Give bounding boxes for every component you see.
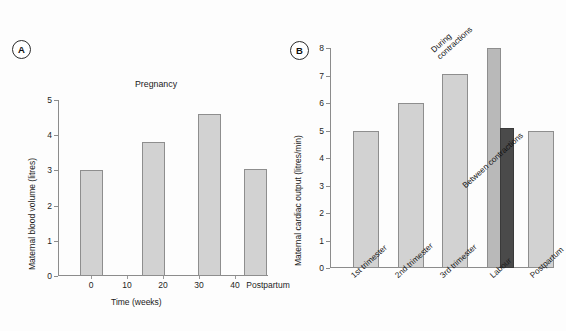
panel-a-letter: A <box>12 40 31 59</box>
panel-a-xlabel-10: 10 <box>117 281 137 290</box>
panel-b-ytick-7 <box>326 76 330 77</box>
panel-a-bar-week0 <box>80 170 103 276</box>
panel-b-ytick-2 <box>326 213 330 214</box>
panel-b-ytick-5 <box>326 131 330 132</box>
panel-a-ytick-label-1: 1 <box>26 237 52 246</box>
panel-b-y-axis <box>330 48 331 268</box>
panel-b-bar-3rd-trimester <box>442 74 468 268</box>
panel-a-xtick-0 <box>91 276 92 279</box>
panel-a-ytick-5 <box>54 100 58 101</box>
annotation-during-contractions: During contractions <box>429 18 474 62</box>
panel-a-ytick-label-5: 5 <box>26 96 52 105</box>
panel-b-ytick-4 <box>326 158 330 159</box>
panel-b: B Maternal cardiac output (litres/min) 8… <box>277 0 557 331</box>
panel-a-xtick-30 <box>199 276 200 279</box>
panel-b-plot-area: 8 7 6 5 4 3 2 1 0 1st trimester <box>330 48 547 268</box>
panel-a-title: Pregnancy <box>135 80 177 89</box>
panel-a-ytick-3 <box>54 170 58 171</box>
panel-a-bar-week35 <box>198 114 221 276</box>
panel-a-ytick-2 <box>54 206 58 207</box>
panel-b-bar-2nd-trimester <box>398 103 424 268</box>
panel-a-y-axis <box>58 100 59 276</box>
panel-b-ytick-3 <box>326 186 330 187</box>
panel-b-ytick-label-2: 2 <box>298 209 324 218</box>
panel-b-ytick-0 <box>326 268 330 269</box>
panel-b-ytick-1 <box>326 241 330 242</box>
panel-a-ytick-1 <box>54 241 58 242</box>
panel-a-ytick-label-2: 2 <box>26 202 52 211</box>
panel-a-xlabel-20: 20 <box>153 281 173 290</box>
panel-a-xtick-20 <box>163 276 164 279</box>
panel-a-plot-area: 5 4 3 2 1 0 0 10 20 30 40 <box>58 100 268 276</box>
panel-a-ytick-label-0: 0 <box>26 272 52 281</box>
panel-b-ytick-label-7: 7 <box>298 72 324 81</box>
panel-b-ytick-label-1: 1 <box>298 237 324 246</box>
panel-a-x-axis-label: Time (weeks) <box>111 298 162 307</box>
panel-a-bar-postpartum <box>244 169 267 276</box>
panel-b-ytick-label-8: 8 <box>298 44 324 53</box>
panel-b-bar-1st-trimester <box>353 131 379 269</box>
panel-a-xlabel-30: 30 <box>189 281 209 290</box>
panel-a-xlabel-0: 0 <box>81 281 101 290</box>
panel-a-ytick-4 <box>54 135 58 136</box>
panel-b-ytick-label-3: 3 <box>298 182 324 191</box>
panel-b-ytick-6 <box>326 103 330 104</box>
panel-a: A Pregnancy Maternal blood volume (litre… <box>0 0 280 331</box>
panel-b-ytick-label-4: 4 <box>298 154 324 163</box>
panel-a-bar-week20 <box>142 142 165 276</box>
panel-a-xtick-10 <box>127 276 128 279</box>
panel-a-ytick-label-4: 4 <box>26 131 52 140</box>
panel-b-ytick-8 <box>326 48 330 49</box>
panel-a-ytick-0 <box>54 276 58 277</box>
panel-b-ytick-label-0: 0 <box>298 264 324 273</box>
panel-b-ytick-label-5: 5 <box>298 127 324 136</box>
panel-a-xtick-40 <box>235 276 236 279</box>
panel-b-bar-postpartum <box>528 131 554 269</box>
panel-a-ytick-label-3: 3 <box>26 166 52 175</box>
panel-b-ytick-label-6: 6 <box>298 99 324 108</box>
